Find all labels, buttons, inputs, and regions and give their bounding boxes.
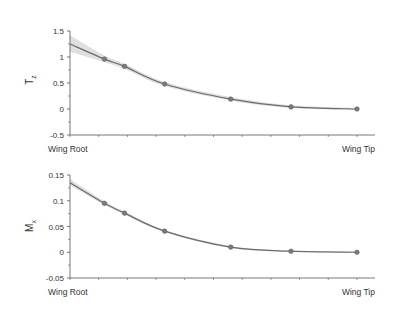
data-point-marker xyxy=(162,82,167,87)
tz-y-axis-label: Tz xyxy=(24,75,37,85)
y-tick-label: -0.5 xyxy=(50,131,64,140)
y-tick-label: 0.5 xyxy=(53,79,65,88)
x-label-wing-tip: Wing Tip xyxy=(342,144,375,154)
y-tick-label: 1.5 xyxy=(53,27,65,36)
y-tick-label: 0.1 xyxy=(53,197,65,206)
x-label-wing-tip: Wing Tip xyxy=(342,287,375,297)
data-point-marker xyxy=(162,229,167,234)
y-tick-label: 0 xyxy=(60,248,65,257)
y-tick-label: 0 xyxy=(60,105,65,114)
tz-chart-panel: -0.500.511.5Wing RootWing TipTz xyxy=(24,27,375,154)
mx-y-axis-label: Mx xyxy=(24,220,37,232)
data-point-marker xyxy=(102,201,107,206)
mx-mean-line xyxy=(70,183,357,253)
y-tick-label: -0.05 xyxy=(46,274,65,283)
data-point-marker xyxy=(228,97,233,102)
wing-load-charts: -0.500.511.5Wing RootWing TipTz -0.0500.… xyxy=(0,0,404,318)
mx-confidence-band xyxy=(70,179,357,253)
data-point-marker xyxy=(122,64,127,69)
tz-mean-line xyxy=(70,44,357,109)
data-point-marker xyxy=(228,245,233,250)
x-label-wing-root: Wing Root xyxy=(48,144,88,154)
data-point-marker xyxy=(289,249,294,254)
tz-confidence-band xyxy=(70,35,357,110)
data-point-marker xyxy=(122,211,127,216)
y-tick-label: 0.05 xyxy=(48,223,64,232)
y-tick-label: 0.15 xyxy=(48,171,64,180)
data-point-marker xyxy=(355,107,360,112)
y-tick-label: 1 xyxy=(60,53,65,62)
x-label-wing-root: Wing Root xyxy=(48,287,88,297)
data-point-marker xyxy=(355,250,360,255)
data-point-marker xyxy=(289,105,294,110)
mx-chart-panel: -0.0500.050.10.15Wing RootWing TipMx xyxy=(24,171,375,297)
data-point-marker xyxy=(102,57,107,62)
